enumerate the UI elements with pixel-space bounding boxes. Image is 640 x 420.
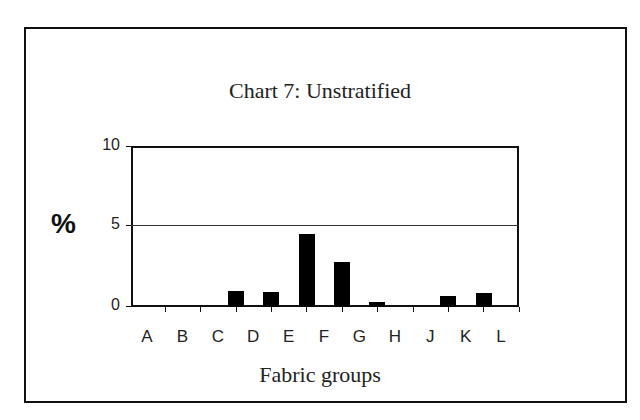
x-axis-label: Fabric groups xyxy=(0,362,640,388)
gridline-5 xyxy=(131,225,519,226)
x-tick-label-K: K xyxy=(451,327,481,347)
bar-K xyxy=(476,293,492,307)
bar-J xyxy=(440,296,456,307)
x-tick-label-L: L xyxy=(486,327,516,347)
chart-title: Chart 7: Unstratified xyxy=(0,78,640,104)
bar-F xyxy=(334,262,350,307)
x-tick-label-F: F xyxy=(309,327,339,347)
x-tick-label-J: J xyxy=(415,327,445,347)
x-tick-mark xyxy=(483,307,484,312)
x-tick-label-B: B xyxy=(167,327,197,347)
x-tick-mark xyxy=(519,307,520,312)
x-tick-label-H: H xyxy=(380,327,410,347)
bar-D xyxy=(263,292,279,307)
bar-E xyxy=(299,234,315,307)
x-tick-label-C: C xyxy=(203,327,233,347)
y-axis-label: % xyxy=(51,208,76,240)
x-tick-mark xyxy=(165,307,166,312)
y-tick-0: 0 xyxy=(90,296,120,314)
x-tick-mark xyxy=(342,307,343,312)
y-tick-10: 10 xyxy=(90,136,120,154)
x-tick-mark xyxy=(271,307,272,312)
x-tick-mark xyxy=(236,307,237,312)
x-tick-mark xyxy=(413,307,414,312)
bar-C xyxy=(228,291,244,307)
x-tick-label-A: A xyxy=(132,327,162,347)
x-tick-label-D: D xyxy=(238,327,268,347)
x-tick-mark xyxy=(448,307,449,312)
x-tick-mark xyxy=(200,307,201,312)
x-tick-label-E: E xyxy=(274,327,304,347)
x-tick-label-G: G xyxy=(344,327,374,347)
y-tick-5: 5 xyxy=(90,215,120,233)
x-tick-mark xyxy=(377,307,378,312)
x-tick-mark xyxy=(306,307,307,312)
plot-area xyxy=(131,146,519,307)
